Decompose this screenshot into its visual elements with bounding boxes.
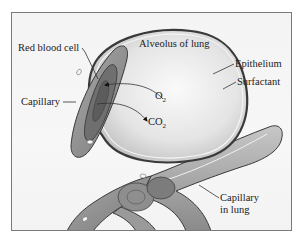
label-alveolus: Alveolus of lung bbox=[139, 38, 210, 49]
label-capillary: Capillary bbox=[21, 96, 61, 107]
diagram-canvas: Red blood cell Alveolus of lung Epitheli… bbox=[12, 13, 291, 230]
red-blood-cell-lower-2 bbox=[147, 177, 175, 199]
label-capillary-in-lung: Capillaryin lung bbox=[220, 192, 260, 215]
leader-capillary-in-lung bbox=[199, 185, 219, 198]
label-epithelium: Epithelium bbox=[235, 58, 282, 69]
label-surfactant: Surfactant bbox=[237, 76, 280, 87]
diagram-frame: Red blood cell Alveolus of lung Epitheli… bbox=[11, 12, 292, 231]
label-red-blood-cell: Red blood cell bbox=[18, 42, 79, 53]
